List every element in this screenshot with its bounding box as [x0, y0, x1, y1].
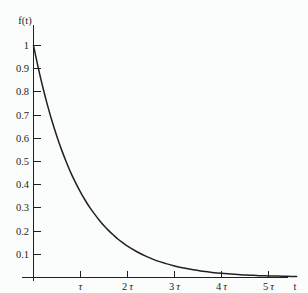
y-tick-label-0_7: 0.7 — [16, 110, 29, 121]
y-axis-title: f(t) — [18, 15, 32, 27]
x-tick-label-3tau-sym: τ — [176, 281, 181, 292]
x-tick-label-4tau-num: 4 — [216, 281, 222, 292]
decay-curve — [34, 46, 297, 277]
x-tick-label-1tau-sym: τ — [79, 281, 84, 292]
y-tick-label-0_6: 0.6 — [16, 133, 29, 144]
axes-group — [22, 25, 288, 281]
x-tick-label-2tau-sym: τ — [129, 281, 134, 292]
y-tick-label-0_8: 0.8 — [16, 86, 29, 97]
y-axis-ticks — [34, 46, 41, 255]
y-tick-label-0_1: 0.1 — [16, 249, 29, 260]
x-tick-label-3tau: 3τ — [169, 281, 181, 292]
x-tick-label-5tau-sym: τ — [270, 281, 275, 292]
x-tick-label-2tau-num: 2 — [122, 281, 127, 292]
x-tick-label-4tau: 4τ — [216, 281, 228, 292]
y-tick-label-0_3: 0.3 — [16, 202, 29, 213]
x-tick-label-3tau-num: 3 — [169, 281, 174, 292]
y-tick-label-0_9: 0.9 — [16, 63, 29, 74]
x-tick-label-1tau: τ — [79, 281, 84, 292]
y-tick-label-0_2: 0.2 — [16, 226, 29, 237]
y-tick-label-0_5: 0.5 — [16, 156, 29, 167]
y-tick-label-1: 1 — [24, 40, 29, 51]
x-tick-label-5tau-num: 5 — [263, 281, 268, 292]
plot-canvas: 1 0.9 0.8 0.7 0.6 0.5 0.4 0.3 0.2 0.1 τ … — [0, 0, 308, 293]
exponential-decay-chart: 1 0.9 0.8 0.7 0.6 0.5 0.4 0.3 0.2 0.1 τ … — [0, 0, 308, 293]
x-tick-label-2tau: 2τ — [122, 281, 134, 292]
x-tick-label-5tau: 5τ — [263, 281, 275, 292]
x-axis-tick-labels: τ 2τ 3τ 4τ 5τ — [79, 281, 276, 292]
y-axis-tick-labels: 1 0.9 0.8 0.7 0.6 0.5 0.4 0.3 0.2 0.1 — [16, 40, 30, 260]
y-tick-label-0_4: 0.4 — [16, 179, 30, 190]
x-axis-title: t — [294, 281, 297, 292]
x-tick-label-4tau-sym: τ — [223, 281, 228, 292]
